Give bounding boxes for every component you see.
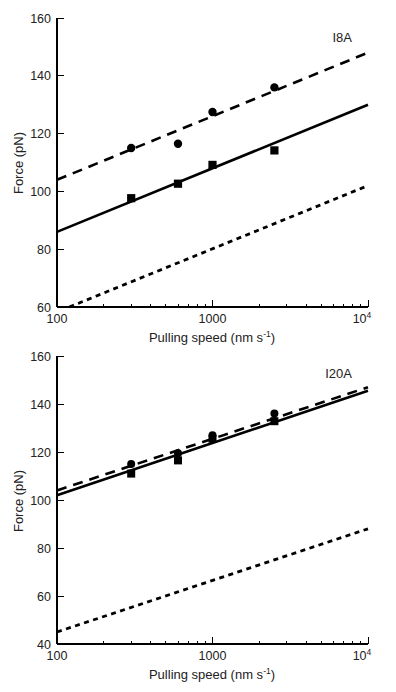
y-tick-label: 80	[37, 542, 51, 556]
y-axis-title: Force (pN)	[11, 470, 26, 532]
x-tick-label-100: 100	[47, 312, 68, 326]
y-tick-label: 140	[30, 69, 51, 83]
x-tickmarks-top	[57, 300, 368, 307]
chart-panel-i20a: 160 140 120 100 80 60 40 100 1000 104 Fo…	[0, 346, 396, 692]
series-circle-markers-top	[127, 83, 279, 152]
y-tickmarks-bottom	[57, 356, 64, 644]
data-point-square	[270, 417, 278, 425]
x-axis-title: Pulling speed (nm s-1)	[149, 329, 275, 345]
x-tick-label-10000: 104	[353, 647, 372, 663]
x-tick-label-10000: 104	[353, 310, 372, 326]
data-point-circle	[270, 410, 278, 418]
data-point-square	[208, 161, 216, 169]
x-tick-label-1000: 1000	[199, 649, 227, 663]
y-tick-label: 100	[30, 494, 51, 508]
data-point-circle	[127, 144, 135, 152]
data-point-square	[174, 456, 182, 464]
series-lower-fit-dotted	[69, 186, 368, 307]
data-point-circle	[174, 449, 182, 457]
y-tick-label: 60	[37, 590, 51, 604]
y-tick-labels-top: 160 140 120 100 80 60	[30, 12, 51, 315]
x-tick-label-100: 100	[47, 649, 68, 663]
data-point-square	[174, 180, 182, 188]
y-tick-label: 120	[30, 127, 51, 141]
y-tickmarks-top	[57, 18, 64, 307]
series-lower-fit-dotted	[57, 529, 368, 632]
figure-container: 160 140 120 100 80 60 100 1000 104 Force…	[0, 0, 396, 692]
data-point-circle	[208, 108, 216, 116]
x-tick-labels-bottom: 100 1000 104	[47, 647, 372, 663]
data-point-circle	[127, 460, 135, 468]
data-point-square	[127, 470, 135, 478]
data-point-square	[270, 146, 278, 154]
x-axis-title: Pulling speed (nm s-1)	[149, 666, 275, 682]
y-axis-title: Force (pN)	[11, 132, 26, 194]
series-lines-bottom	[57, 387, 368, 632]
y-tick-label: 160	[30, 350, 51, 364]
data-point-circle	[174, 140, 182, 148]
y-tick-label: 160	[30, 12, 51, 26]
x-tick-labels-top: 100 1000 104	[47, 310, 372, 326]
data-point-circle	[270, 83, 278, 91]
y-tick-label: 120	[30, 446, 51, 460]
y-tick-label: 100	[30, 185, 51, 199]
panel-annotation-i8a: I8A	[332, 30, 352, 45]
y-tick-labels-bottom: 160 140 120 100 80 60 40	[30, 350, 51, 652]
series-middle-fit-solid	[57, 391, 368, 495]
x-tickmarks-bottom	[57, 637, 368, 644]
series-circle-markers-bottom	[127, 410, 278, 468]
data-point-square	[127, 194, 135, 202]
panel-annotation-i20a: I20A	[325, 366, 352, 381]
chart-panel-i8a: 160 140 120 100 80 60 100 1000 104 Force…	[0, 0, 396, 346]
y-tick-label: 80	[37, 243, 51, 257]
x-tick-label-1000: 1000	[199, 312, 227, 326]
series-lines-top	[57, 53, 368, 307]
data-point-square	[209, 435, 217, 443]
axes-bottom	[57, 356, 368, 644]
y-tick-label: 140	[30, 398, 51, 412]
